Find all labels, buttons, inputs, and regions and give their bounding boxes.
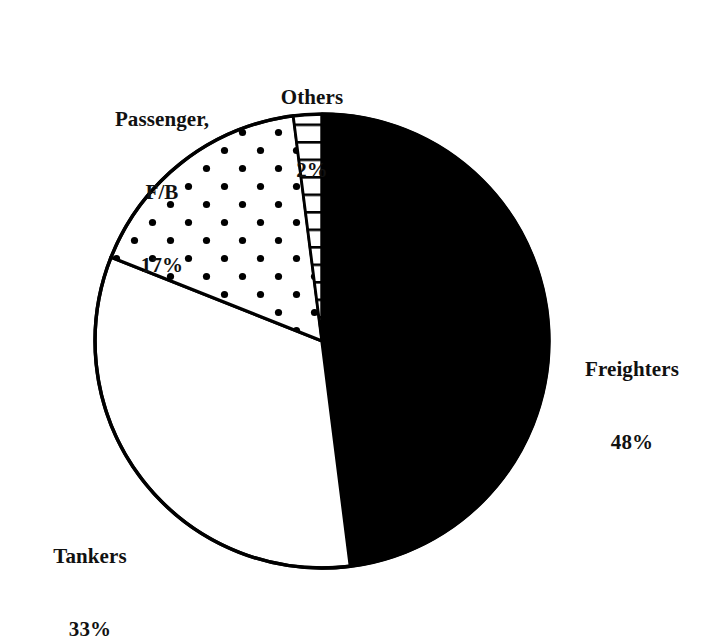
label-others: Others 2% (232, 36, 392, 231)
label-others-name: Others (232, 85, 392, 109)
label-freighters-percent: 48% (558, 430, 706, 454)
label-passenger-fb: Passenger, F/B 17% (72, 58, 252, 326)
label-tankers-name: Tankers (10, 544, 170, 568)
label-freighters-name: Freighters (558, 357, 706, 381)
label-tankers-percent: 33% (10, 617, 170, 640)
label-passenger-name-line1: Passenger, (72, 107, 252, 131)
label-freighters: Freighters 48% (558, 308, 706, 503)
label-tankers: Tankers 33% (10, 495, 170, 640)
label-passenger-name-line2: F/B (72, 180, 252, 204)
label-others-percent: 2% (232, 158, 392, 182)
label-passenger-percent: 17% (72, 253, 252, 277)
